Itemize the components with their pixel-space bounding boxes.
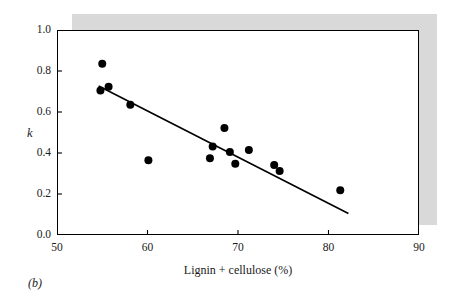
scatter-point [126, 101, 134, 109]
x-tick-label: 90 [399, 242, 439, 254]
x-tick-label: 80 [309, 242, 349, 254]
scatter-point [98, 60, 106, 68]
scatter-point [270, 161, 278, 169]
scatter-point [144, 156, 152, 164]
scatter-point [206, 154, 214, 162]
y-tick-label: 0.0 [9, 229, 51, 241]
y-tick-label: 0.2 [9, 188, 51, 200]
figure-panel-b: 5060708090 0.00.20.40.60.81.0 Lignin + c… [0, 0, 450, 300]
x-axis-ticks [148, 230, 329, 235]
scatter-points [96, 60, 344, 194]
scatter-point [276, 167, 284, 175]
y-axis-title: k [27, 127, 33, 140]
scatter-point [96, 86, 104, 94]
scatter-point [220, 124, 228, 132]
y-tick-label: 0.8 [9, 65, 51, 77]
x-tick-label: 60 [128, 242, 168, 254]
y-axis-ticks [57, 71, 62, 194]
scatter-point [226, 148, 234, 156]
panel-label: (b) [28, 277, 42, 289]
y-tick-label: 0.4 [9, 147, 51, 159]
x-tick-label: 70 [218, 242, 258, 254]
regression-trendline [99, 86, 349, 214]
scatter-point [231, 160, 239, 168]
scatter-point [245, 146, 253, 154]
scatter-point [336, 186, 344, 194]
x-tick-label: 50 [37, 242, 77, 254]
scatter-point [105, 83, 113, 91]
y-tick-label: 0.6 [9, 106, 51, 118]
x-axis-title: Lignin + cellulose (%) [57, 264, 419, 276]
chart-canvas [0, 0, 450, 300]
y-tick-label: 1.0 [9, 24, 51, 36]
scatter-point [209, 142, 217, 150]
